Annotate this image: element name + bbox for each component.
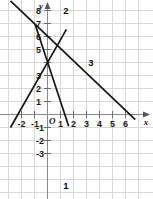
x-tick-label-1: 1 bbox=[58, 119, 63, 129]
x-tick-label-neg1: -1 bbox=[31, 119, 39, 129]
y-tick-label-3: 3 bbox=[36, 71, 41, 81]
chart-background bbox=[0, 0, 153, 199]
x-tick-label-5: 5 bbox=[110, 119, 115, 129]
x-tick-label-6: 6 bbox=[123, 119, 128, 129]
x-tick-label-neg2: -2 bbox=[17, 119, 25, 129]
y-tick-label-6: 6 bbox=[36, 32, 41, 42]
x-tick-label-2: 2 bbox=[71, 119, 76, 129]
origin-label: O bbox=[49, 116, 56, 126]
series-label-3: 3 bbox=[88, 57, 93, 68]
y-tick-label-7: 7 bbox=[36, 19, 41, 29]
x-tick-label-4: 4 bbox=[97, 119, 102, 129]
y-tick-label-1: 1 bbox=[36, 97, 41, 107]
x-axis-label: x bbox=[143, 117, 149, 127]
y-tick-label-neg3: -3 bbox=[36, 149, 44, 159]
series-label-2: 2 bbox=[63, 5, 68, 16]
y-tick-label-2: 2 bbox=[36, 84, 41, 94]
x-axis-tick-labels: -2 -1 1 2 3 4 5 6 bbox=[17, 119, 128, 129]
y-tick-label-neg2: -2 bbox=[36, 136, 44, 146]
series-label-1: 1 bbox=[63, 180, 69, 191]
coordinate-graph-figure: 8 7 6 5 3 2 1 -1 -2 -3 -2 -1 1 2 3 4 5 6… bbox=[0, 0, 153, 199]
y-tick-label-5: 5 bbox=[36, 45, 41, 55]
x-tick-label-3: 3 bbox=[84, 119, 89, 129]
coordinate-plane-svg: 8 7 6 5 3 2 1 -1 -2 -3 -2 -1 1 2 3 4 5 6… bbox=[0, 0, 153, 199]
